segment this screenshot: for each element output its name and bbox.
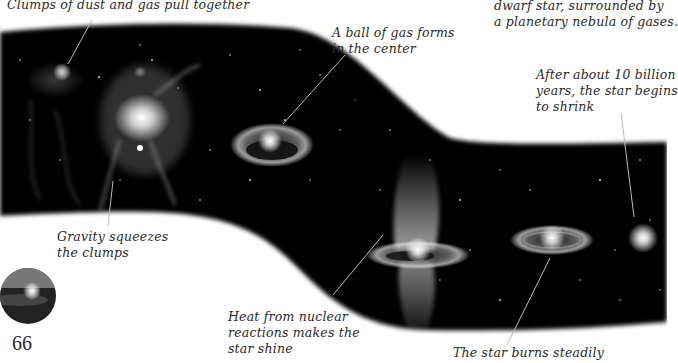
shrinking-star [628, 223, 658, 253]
caption-shrink: After about 10 billion years, the star b… [536, 67, 678, 115]
caption-clumps: Clumps of dust and gas pull together [7, 0, 249, 13]
caption-dwarf-star: dwarf star, surrounded by a planetary ne… [494, 0, 678, 30]
caption-heat: Heat from nuclear reactions makes the st… [228, 309, 360, 357]
caption-gravity: Gravity squeezes the clumps [57, 229, 168, 261]
caption-steady: The star burns steadily [453, 345, 604, 361]
main-sequence-star [510, 225, 594, 255]
inset-disc [0, 268, 56, 324]
protostar [230, 123, 314, 167]
page-number: 66 [12, 332, 32, 355]
caption-gas-ball: A ball of gas forms in the center [332, 25, 455, 57]
